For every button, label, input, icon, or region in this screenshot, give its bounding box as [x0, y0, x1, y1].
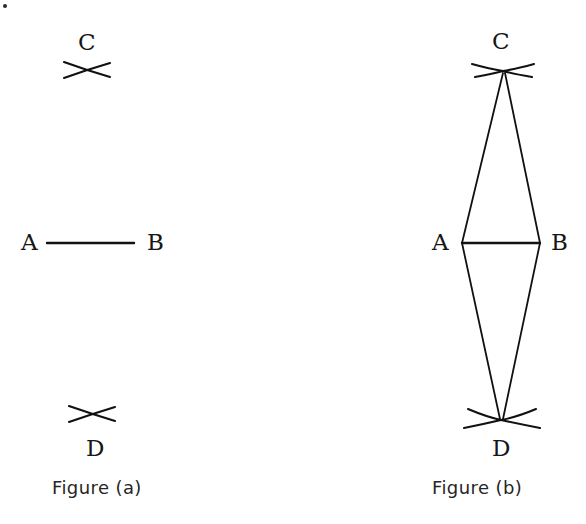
figure-a-label-d: D: [86, 437, 104, 460]
figure-a-label-a: A: [21, 231, 38, 254]
figure-b-caption: Figure (b): [432, 479, 522, 497]
figure-b-label-a: A: [432, 231, 449, 254]
line-ad-figure-b: [462, 243, 500, 419]
figure-a-label-c: C: [78, 31, 96, 54]
arc-cross-c-figure-a: [64, 62, 110, 78]
figure-a-caption: Figure (a): [52, 479, 142, 497]
line-cb-figure-b: [505, 73, 540, 243]
line-ca-figure-b: [462, 73, 503, 243]
figure-a-drawing: [47, 62, 134, 422]
figure-b-drawing: [462, 64, 540, 428]
line-bd-figure-b: [503, 243, 540, 419]
figure-a-label-b: B: [147, 231, 164, 254]
arc-cross-d-figure-a: [69, 406, 115, 422]
diagram-page: C A B D Figure (a) C A B D Figure (b): [0, 0, 586, 524]
arc-cross-d-figure-b: [464, 409, 540, 428]
figure-b-label-d: D: [492, 437, 510, 460]
figure-b-label-c: C: [492, 30, 510, 53]
figure-b-label-b: B: [551, 231, 568, 254]
